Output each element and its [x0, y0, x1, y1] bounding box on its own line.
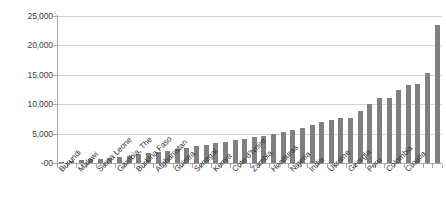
y-tick-label: 20,000 [0, 41, 53, 50]
y-tick-label: 10,000 [0, 100, 53, 109]
bar [329, 120, 334, 164]
bar-series [57, 15, 442, 163]
x-axis-labels: BurundiMalawiSierra LeoneGambia, TheBurk… [0, 168, 446, 223]
bar [425, 73, 430, 163]
bar [387, 98, 392, 163]
bar [435, 25, 440, 163]
bar-chart: -005,00010,00015,00020,00025,000 Burundi… [0, 0, 446, 223]
bar [377, 98, 382, 163]
bar [271, 134, 276, 163]
y-tick-label: 25,000 [0, 12, 53, 21]
y-tick-label: -00 [0, 159, 53, 168]
y-tick-label: 15,000 [0, 71, 53, 80]
y-tick-label: 5,000 [0, 130, 53, 139]
